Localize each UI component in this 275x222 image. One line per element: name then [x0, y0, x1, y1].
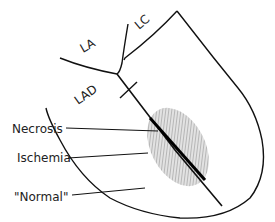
ischemia-zone	[134, 97, 221, 197]
heart-coronary-diagram: LA LC LAD Necrosis Ischemia "Normal"	[0, 0, 275, 222]
label-la: LA	[78, 35, 99, 55]
label-lc: LC	[132, 12, 153, 32]
vessel-lc	[124, 11, 177, 60]
heart-outline-left	[60, 58, 117, 74]
vessel-la	[117, 24, 128, 74]
leader-ischemia	[68, 153, 148, 158]
label-lad: LAD	[72, 82, 100, 107]
label-ischemia: Ischemia	[17, 151, 71, 165]
leader-necrosis	[66, 128, 158, 131]
leader-normal	[72, 188, 145, 195]
label-necrosis: Necrosis	[12, 122, 63, 136]
label-normal: "Normal"	[14, 190, 68, 204]
